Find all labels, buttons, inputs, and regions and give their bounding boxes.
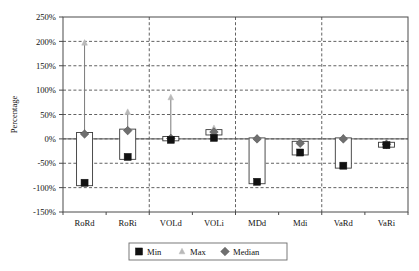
y-axis-title: Percentage [9,95,19,133]
x-axis-tick-label: VaRd [334,218,354,228]
y-axis-tick-label: -50% [37,158,56,168]
x-axis-tick-label: VaRi [378,218,396,228]
x-axis-tick-label: RoRi [119,218,138,228]
chart-container: 250%200%150%100%50%0%-50%-100%-150%Perce… [0,0,419,271]
x-axis-tick-label: RoRd [75,218,96,228]
y-axis-tick-label: 0% [45,134,56,144]
x-axis-tick-label: MDd [248,218,267,228]
marker-min [340,162,347,169]
y-axis-tick-label: -100% [33,183,56,193]
y-axis-tick-label: 150% [36,61,56,71]
y-axis-tick-label: 50% [40,110,56,120]
box-body [249,138,265,184]
y-axis-tick-label: 250% [36,12,56,22]
legend-label-median: Median [233,247,260,257]
y-axis-tick-label: 200% [36,37,56,47]
box-whisker-chart: 250%200%150%100%50%0%-50%-100%-150%Perce… [0,0,419,271]
marker-min [383,142,390,149]
marker-min [81,179,88,186]
x-axis-tick-label: VOLd [160,218,183,228]
marker-min [167,136,174,143]
legend-marker-min [135,248,142,255]
legend-label-max: Max [190,247,206,257]
marker-min [254,178,261,185]
box-body [77,133,93,186]
x-axis-tick-label: VOLi [204,218,225,228]
marker-min [297,149,304,156]
marker-min [124,153,131,160]
x-axis-tick-label: Mdi [293,218,308,228]
y-axis-tick-label: -150% [33,207,56,217]
y-axis-tick-label: 100% [36,85,56,95]
marker-min [210,134,217,141]
legend-label-min: Min [147,247,162,257]
